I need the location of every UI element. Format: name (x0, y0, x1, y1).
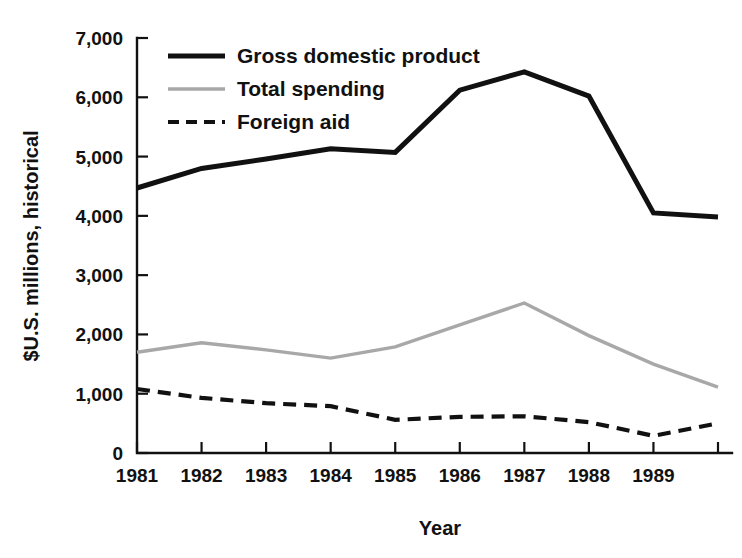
y-tick-label: 4,000 (75, 206, 123, 227)
axis-lines (137, 38, 732, 453)
y-tick-label: 7,000 (75, 28, 123, 49)
legend-label: Total spending (237, 77, 385, 100)
x-tick-label: 1981 (116, 465, 159, 486)
line-chart: 01,0002,0003,0004,0005,0006,0007,000 198… (0, 0, 742, 558)
y-tick-label: 2,000 (75, 324, 123, 345)
x-tick-label: 1984 (310, 465, 353, 486)
series-line (137, 389, 718, 436)
x-tick-label: 1988 (568, 465, 610, 486)
y-tick-label: 6,000 (75, 87, 123, 108)
series-line (137, 72, 718, 217)
y-tick-label: 0 (112, 443, 123, 464)
chart-container: 01,0002,0003,0004,0005,0006,0007,000 198… (0, 0, 742, 558)
legend-label: Gross domestic product (237, 44, 480, 67)
x-tick-label: 1985 (374, 465, 417, 486)
y-tick-label: 1,000 (75, 384, 123, 405)
y-tick-label: 5,000 (75, 147, 123, 168)
x-axis-title: Year (419, 517, 461, 539)
x-tick-label: 1987 (503, 465, 545, 486)
x-tick-label: 1982 (180, 465, 222, 486)
y-tick-label: 3,000 (75, 265, 123, 286)
series-line (137, 303, 718, 387)
x-tick-label: 1986 (439, 465, 481, 486)
x-tick-label: 1989 (632, 465, 674, 486)
data-series-group (137, 72, 718, 436)
x-tick-label: 1983 (245, 465, 287, 486)
x-axis-ticks: 198119821983198419851986198719881989 (116, 442, 718, 486)
y-axis-title: $U.S. millions, historical (20, 130, 42, 361)
legend-label: Foreign aid (237, 110, 350, 133)
